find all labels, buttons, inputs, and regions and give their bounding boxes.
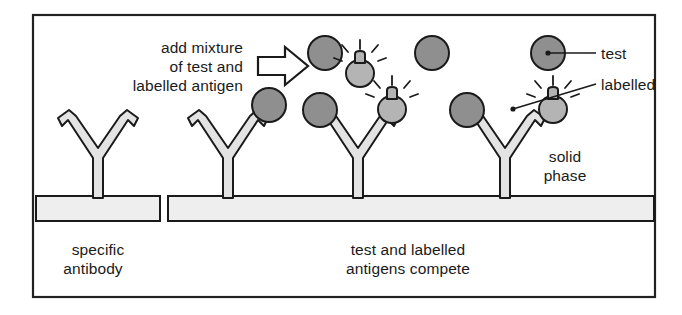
instruction-line-2: of test and <box>170 58 243 75</box>
solid-phase-plate-right <box>168 196 654 221</box>
solid-phase-line-2: phase <box>544 167 587 184</box>
specific-antibody-caption-line-2: antibody <box>63 260 123 277</box>
instruction-line-3: labelled antigen <box>133 77 243 94</box>
free-test-antigen-2 <box>415 36 449 70</box>
solid-phase-line-1: solid <box>549 148 581 165</box>
legend-label-test: test <box>601 45 627 62</box>
competition-caption-line-2: antigens compete <box>346 260 470 277</box>
free-test-antigen-1 <box>308 36 342 70</box>
diagram-canvas: add mixture of test and labelled antigen… <box>0 0 682 315</box>
bound-test-antigen-ab4 <box>450 93 484 127</box>
solid-phase-plate-left <box>36 196 160 221</box>
bound-test-antigen-ab3 <box>303 93 337 127</box>
bound-test-antigen-ab2 <box>252 88 286 122</box>
immunoassay-diagram: add mixture of test and labelled antigen… <box>0 0 682 315</box>
instruction-line-1: add mixture <box>161 39 243 56</box>
competition-caption-line-1: test and labelled <box>351 241 466 258</box>
specific-antibody-caption-line-1: specific <box>72 241 125 258</box>
legend-label-labelled: labelled <box>601 76 655 93</box>
